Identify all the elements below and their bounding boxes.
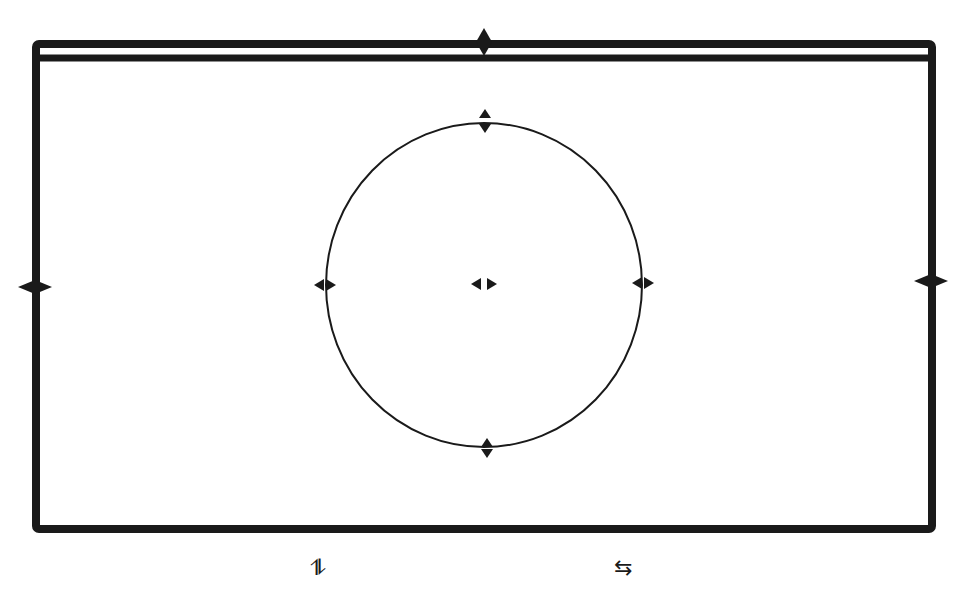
circle-bottom-handle-up-arrow-icon[interactable] [481,438,493,447]
circle-top-handle-up-arrow-icon[interactable] [479,109,491,118]
circle-left-handle-right-arrow-icon[interactable] [326,279,336,291]
circle-shape[interactable] [326,123,642,447]
circle-center-handle-left-arrow-icon[interactable] [471,278,481,290]
frame-top-resize-handle-icon[interactable] [476,28,492,56]
circle-left-handle-left-arrow-icon[interactable] [314,279,324,291]
horizontal-swap-arrows-icon[interactable]: ⇆ [614,557,632,579]
circle-center-handle-right-arrow-icon[interactable] [487,278,497,290]
circle-right-handle-left-arrow-icon[interactable] [632,277,642,289]
drawing-canvas[interactable] [0,0,955,612]
circle-bottom-handle-down-arrow-icon[interactable] [481,449,493,458]
frame-left-resize-handle-icon[interactable] [18,280,52,294]
drawing-stage: ⥮ ⇆ [0,0,955,612]
frame-right-resize-handle-icon[interactable] [914,274,948,288]
circle-top-handle-down-arrow-icon[interactable] [479,124,491,133]
resize-handles [18,28,948,458]
circle-right-handle-right-arrow-icon[interactable] [644,277,654,289]
vertical-swap-arrows-icon[interactable]: ⥮ [310,557,326,579]
